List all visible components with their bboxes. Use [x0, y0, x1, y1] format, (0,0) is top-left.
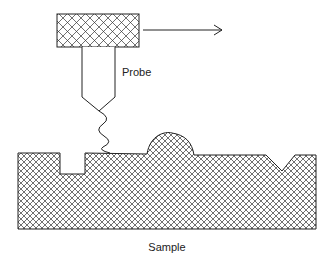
spring — [99, 111, 110, 153]
probe-label: Probe — [122, 66, 151, 78]
probe-shaft — [82, 47, 115, 111]
sample-body — [18, 133, 316, 229]
sample-label: Sample — [148, 241, 185, 253]
scan-arrow-icon — [143, 25, 222, 35]
probe-head — [57, 14, 139, 47]
probe-diagram: Probe Sample — [0, 0, 331, 265]
